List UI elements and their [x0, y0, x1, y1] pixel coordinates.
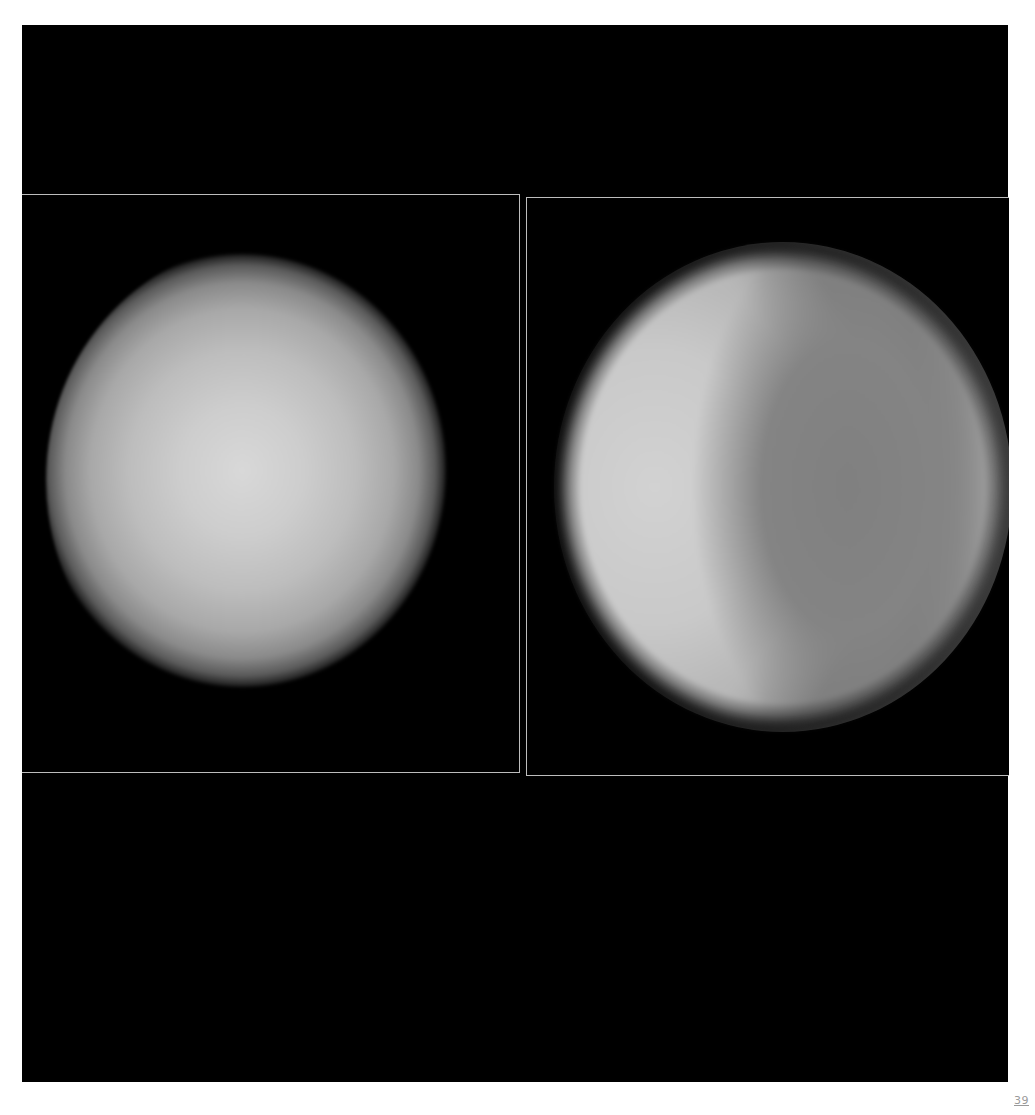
planet-disk-banded [554, 242, 1009, 732]
page-number: 39 [1014, 1094, 1029, 1107]
image-panel-right [526, 197, 1009, 776]
planet-disk-uniform [46, 243, 492, 717]
image-panel-left [22, 194, 520, 773]
